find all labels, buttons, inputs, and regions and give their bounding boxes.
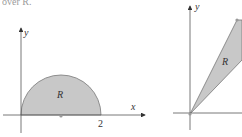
header-text: over R. bbox=[2, 0, 31, 7]
tick-label-2: 2 bbox=[98, 118, 103, 129]
figure-right: y R bbox=[173, 1, 242, 130]
wedge-region bbox=[190, 20, 242, 114]
region-label-left: R bbox=[56, 89, 63, 100]
y-axis-label-left: y bbox=[23, 27, 29, 38]
y-axis-label-right: y bbox=[194, 1, 200, 12]
diagram-canvas: over R. y R 2 x y R bbox=[0, 0, 242, 137]
vertex-point bbox=[235, 18, 238, 21]
figure-left: y R 2 x bbox=[3, 27, 145, 133]
center-point bbox=[59, 114, 62, 117]
origin-point bbox=[188, 112, 191, 115]
x-axis-label: x bbox=[130, 101, 136, 112]
region-label-right: R bbox=[221, 56, 228, 67]
